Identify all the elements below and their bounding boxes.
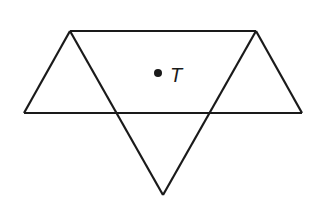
triangles-figure xyxy=(0,0,309,219)
diagram: T xyxy=(0,0,309,219)
point-t-label: T xyxy=(170,65,182,85)
right-outer-edge xyxy=(256,31,302,113)
left-outer-edge xyxy=(24,31,70,113)
point-t-dot xyxy=(154,69,162,77)
